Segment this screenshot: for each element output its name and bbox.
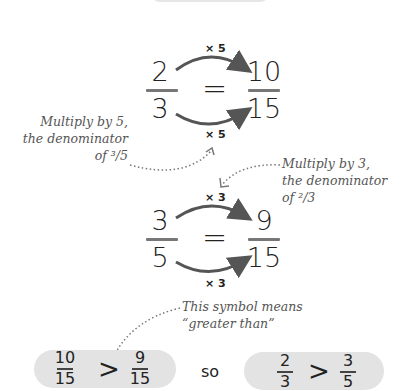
multiply-arrow-bottom-1 — [176, 112, 245, 124]
so-connector: so — [201, 362, 219, 381]
fraction-2-numerator: 10 — [242, 58, 286, 85]
multiply-arrow-top-1 — [176, 57, 245, 70]
compare-1-left-denominator: 15 — [50, 371, 80, 387]
compare-2-right-denominator: 5 — [333, 374, 363, 390]
annotation-line: of ³/5 — [20, 147, 128, 164]
fraction-2-bar — [248, 89, 280, 92]
fraction-4-denominator: 15 — [242, 244, 286, 271]
compare-2-left-denominator: 3 — [270, 374, 300, 390]
greater-than-symbol-1: > — [98, 356, 120, 382]
annotation-line: the denominator — [20, 130, 128, 147]
annotation-line: This symbol means — [182, 298, 342, 315]
fraction-3-numerator: 3 — [138, 207, 182, 234]
annotation-multiply-by-3: Multiply by 3, the denominator of ²/3 — [282, 155, 407, 206]
annotation-multiply-by-5: Multiply by 5, the denominator of ³/5 — [20, 113, 128, 164]
multiply-arrow-top-2 — [176, 206, 245, 218]
compare-2-right-numerator: 3 — [333, 353, 363, 369]
equals-sign-1: = — [202, 74, 227, 104]
annotation-line: Multiply by 3, — [282, 155, 407, 172]
annotation-line: “greater than” — [182, 315, 342, 332]
fraction-3-denominator: 5 — [138, 244, 182, 271]
greater-than-symbol-2: > — [308, 358, 330, 384]
fraction-2-denominator: 15 — [242, 95, 286, 122]
multiply-arrow-bottom-2 — [176, 260, 245, 272]
annotation-line: the denominator — [282, 172, 407, 189]
fraction-1-numerator: 2 — [138, 58, 182, 85]
multiplier-top-2: × 3 — [205, 191, 226, 204]
annotation-line: Multiply by 5, — [20, 113, 128, 130]
fraction-1-denominator: 3 — [138, 95, 182, 122]
fraction-4-numerator: 9 — [242, 207, 286, 234]
compare-2-left-numerator: 2 — [270, 353, 300, 369]
compare-1-right-denominator: 15 — [125, 371, 155, 387]
annotation-greater-than: This symbol means “greater than” — [182, 298, 342, 332]
multiplier-bottom-2: × 3 — [205, 277, 226, 290]
compare-1-left-numerator: 10 — [50, 350, 80, 366]
dotted-leader-2 — [222, 165, 280, 185]
multiplier-top-1: × 5 — [205, 42, 226, 55]
compare-1-right-numerator: 9 — [125, 350, 155, 366]
fraction-4-bar — [248, 238, 280, 241]
fraction-3-bar — [146, 238, 178, 241]
equals-sign-2: = — [202, 223, 227, 253]
multiplier-bottom-1: × 5 — [205, 128, 226, 141]
annotation-line: of ²/3 — [282, 189, 407, 206]
fraction-1-bar — [146, 89, 178, 92]
dotted-leader-1 — [130, 150, 212, 170]
